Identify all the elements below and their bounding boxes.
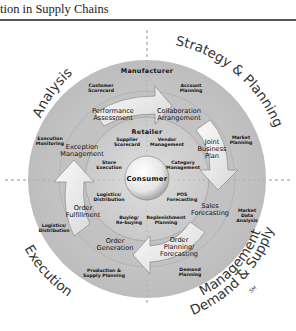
svg-text:AccountPlanning: AccountPlanning: [180, 83, 203, 93]
collaboration-cycle-diagram: Manufacturer Retailer Consumer CustomerS…: [0, 0, 296, 331]
manufacturer-label: Manufacturer: [121, 67, 174, 75]
svg-text:DemandPlanning: DemandPlanning: [179, 267, 202, 277]
svg-text:MarketPlanning: MarketPlanning: [230, 135, 253, 145]
retailer-label: Retailer: [132, 128, 163, 136]
svg-text:PerformanceAssessment: PerformanceAssessment: [92, 107, 134, 122]
svg-text:CollaborationArrangement: CollaborationArrangement: [157, 107, 201, 122]
svg-text:Logistics/Distribution: Logistics/Distribution: [39, 223, 70, 233]
svg-text:ExceptionManagement: ExceptionManagement: [60, 143, 104, 158]
svg-text:SupplierScorecard: SupplierScorecard: [114, 137, 140, 147]
svg-text:Production &Supply Planning: Production &Supply Planning: [83, 268, 125, 278]
svg-text:CustomerScorecard: CustomerScorecard: [88, 83, 114, 93]
service-mark: SM: [248, 284, 258, 293]
svg-text:Buying/Re-buying: Buying/Re-buying: [116, 215, 142, 225]
svg-text:ExecutionMonitoring: ExecutionMonitoring: [36, 136, 64, 146]
svg-text:Logistics/Distribution: Logistics/Distribution: [94, 192, 125, 202]
consumer-label: Consumer: [127, 175, 168, 183]
